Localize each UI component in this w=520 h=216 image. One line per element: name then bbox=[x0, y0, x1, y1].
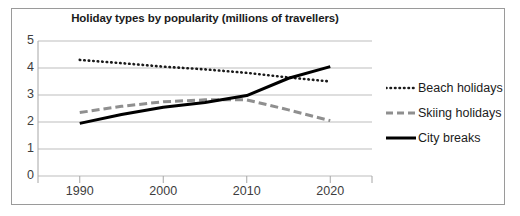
legend-label: City breaks bbox=[418, 131, 481, 145]
y-tick-label: 4 bbox=[12, 60, 34, 74]
legend-item-city-breaks[interactable]: City breaks bbox=[386, 130, 481, 146]
legend-label: Skiing holidays bbox=[418, 106, 501, 120]
data-series-layer bbox=[80, 60, 331, 123]
y-tick-label: 2 bbox=[12, 114, 34, 128]
x-tick-label: 2020 bbox=[300, 184, 360, 198]
legend-label: Beach holidays bbox=[418, 81, 503, 95]
legend-item-skiing-holidays[interactable]: Skiing holidays bbox=[386, 105, 501, 121]
legend-swatch-solid-icon bbox=[386, 133, 416, 143]
legend-swatch-dashed-icon bbox=[386, 108, 416, 118]
x-tick-label: 2000 bbox=[133, 184, 193, 198]
legend-swatch-dotted-icon bbox=[386, 83, 416, 93]
y-tick-label: 0 bbox=[12, 168, 34, 182]
y-tick-label: 3 bbox=[12, 87, 34, 101]
y-tick-label: 5 bbox=[12, 33, 34, 47]
x-tick-label: 1990 bbox=[50, 184, 110, 198]
x-tick-label: 2010 bbox=[217, 184, 277, 198]
y-tick-label: 1 bbox=[12, 141, 34, 155]
x-axis-ticks bbox=[80, 176, 372, 183]
legend-item-beach-holidays[interactable]: Beach holidays bbox=[386, 80, 503, 96]
chart-container: Holiday types by popularity (millions of… bbox=[0, 0, 520, 216]
